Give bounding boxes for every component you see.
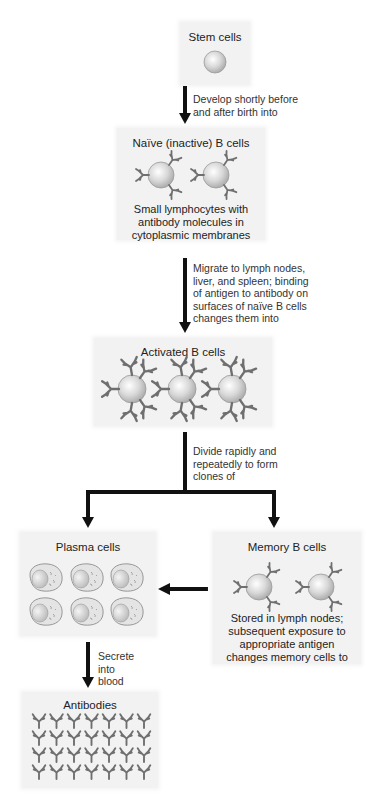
antibody-icon xyxy=(22,692,158,788)
plasma-arrow-label: Secrete into blood xyxy=(98,650,134,688)
arrow-down-icon xyxy=(0,0,370,796)
antibodies-box: Antibodies xyxy=(22,692,158,788)
